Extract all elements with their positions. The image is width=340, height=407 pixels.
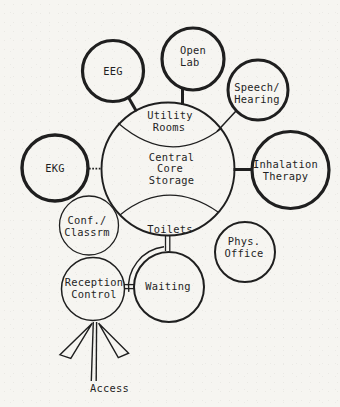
access-arrows bbox=[60, 322, 129, 381]
bubble-diagram: EEG Open Lab Speech/ Hearing EKG Inhalat… bbox=[0, 0, 340, 407]
ekg-label: EKG bbox=[45, 162, 65, 174]
access-arrow-right bbox=[99, 323, 129, 357]
central-core-label-line3: Storage bbox=[149, 174, 195, 186]
central-core-label-line2: Core bbox=[157, 162, 183, 174]
waiting-label: Waiting bbox=[145, 280, 191, 292]
inhalation-therapy-label-line2: Therapy bbox=[263, 170, 309, 182]
utility-rooms-label-line1: Utility bbox=[147, 109, 193, 121]
speech-hearing-label-line1: Speech/ bbox=[234, 81, 280, 93]
reception-control-label-line2: Control bbox=[71, 288, 117, 300]
inhalation-therapy-label-line1: Inhalation bbox=[253, 158, 318, 170]
access-label: Access bbox=[90, 382, 129, 394]
phys-office-label-line1: Phys. bbox=[228, 235, 261, 247]
conf-classrm-label-line2: Classrm bbox=[64, 226, 110, 238]
open-lab-label-line2: Lab bbox=[180, 56, 200, 68]
eeg-connector bbox=[128, 97, 137, 112]
speech-hearing-label-line2: Hearing bbox=[234, 93, 280, 105]
toilets-label: Toilets bbox=[147, 223, 193, 235]
toilets-zone-arc bbox=[120, 195, 218, 215]
speech-hearing-connector bbox=[217, 111, 236, 132]
access-arrow-left bbox=[60, 323, 92, 358]
scanned-page: EEG Open Lab Speech/ Hearing EKG Inhalat… bbox=[0, 0, 340, 407]
conf-classrm-label-line1: Conf./ bbox=[67, 214, 106, 226]
open-lab-label-line1: Open bbox=[180, 44, 206, 56]
eeg-label: EEG bbox=[103, 65, 123, 77]
phys-office-label-line2: Office bbox=[224, 247, 263, 259]
reception-control-label-line1: Reception bbox=[65, 276, 124, 288]
utility-rooms-label-line2: Rooms bbox=[153, 121, 186, 133]
access-shaft-left bbox=[91, 322, 93, 381]
